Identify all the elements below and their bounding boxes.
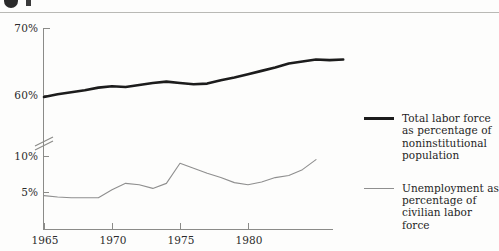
legend-label-total-labor-force: Total labor force as percentage of nonin… xyxy=(402,112,499,162)
legend-line: civilian labor force xyxy=(402,206,499,231)
data-lines xyxy=(0,12,350,251)
legend-swatch-thick-line xyxy=(364,117,394,120)
legend-line: population xyxy=(402,149,499,161)
legend-item-unemployment: Unemployment as percentage of civilian l… xyxy=(364,182,499,232)
legend: Total labor force as percentage of nonin… xyxy=(364,112,499,245)
legend-line: noninstitutional xyxy=(402,137,499,149)
legend-line: percentage of xyxy=(402,194,499,206)
plot-area: 70% 60% 10% 5% 1965 1970 1975 1980 xyxy=(0,12,350,251)
line-total-labor-force xyxy=(44,59,343,97)
legend-item-total-labor-force: Total labor force as percentage of nonin… xyxy=(364,112,499,162)
header-title-fragment xyxy=(46,0,196,4)
circle-icon xyxy=(4,0,18,8)
figure-canvas: 70% 60% 10% 5% 1965 1970 1975 1980 xyxy=(0,0,499,251)
line-unemployment xyxy=(44,160,316,198)
legend-label-unemployment: Unemployment as percentage of civilian l… xyxy=(402,182,499,232)
bar-icon xyxy=(26,0,31,6)
legend-swatch-thin-line xyxy=(364,188,394,189)
legend-line: Unemployment as xyxy=(402,182,499,194)
legend-line: as percentage of xyxy=(402,124,499,136)
legend-line: Total labor force xyxy=(402,112,499,124)
page-header-artifact xyxy=(0,0,499,12)
